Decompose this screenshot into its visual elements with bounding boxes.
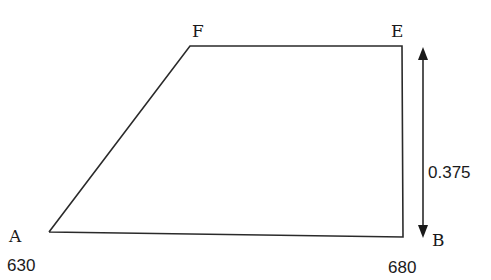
vertex-label-a: A (9, 228, 21, 245)
value-label-b: 680 (388, 259, 416, 276)
arrowhead-up-icon (418, 47, 428, 60)
dimension-arrow (418, 47, 428, 238)
value-label-a: 630 (7, 257, 35, 274)
vertex-label-f: F (192, 23, 204, 40)
vertex-label-b: B (432, 232, 445, 249)
arrowhead-down-icon (418, 225, 428, 238)
trapezoid-diagram (0, 0, 491, 280)
trapezoid-outline (49, 46, 403, 237)
vertex-label-e: E (391, 23, 403, 40)
dimension-label: 0.375 (428, 164, 471, 181)
